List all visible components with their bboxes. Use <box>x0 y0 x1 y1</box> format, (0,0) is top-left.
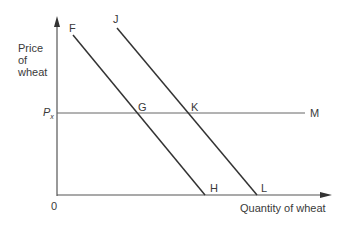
point-label-m: M <box>310 107 319 119</box>
point-label-j: J <box>113 13 119 25</box>
y-axis-arrow-icon <box>54 16 60 27</box>
price-level-subscript: x <box>50 113 54 120</box>
point-label-g: G <box>138 101 147 113</box>
point-label-f: F <box>69 22 76 34</box>
x-axis-arrow-icon <box>320 192 332 198</box>
y-axis-label-line3: wheat <box>18 66 47 78</box>
x-axis-label: Quantity of wheat <box>240 202 326 214</box>
price-level-label: Px <box>43 106 54 123</box>
point-label-k: K <box>191 101 198 113</box>
y-axis-label-line2: of <box>18 54 47 66</box>
origin-label: 0 <box>51 200 57 212</box>
point-label-h: H <box>210 182 218 194</box>
y-axis-label-line1: Price <box>18 42 47 54</box>
line-fh <box>73 35 205 195</box>
y-axis-label: Price of wheat <box>18 42 47 78</box>
point-label-l: L <box>261 182 267 194</box>
